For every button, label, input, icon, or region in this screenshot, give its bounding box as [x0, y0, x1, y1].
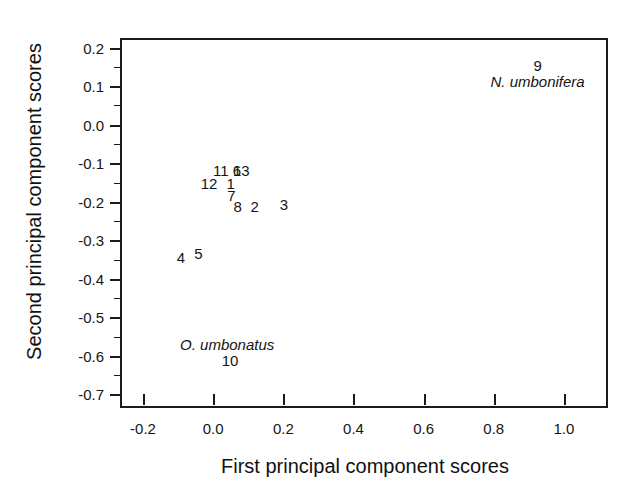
y-tick-label: -0.6 [78, 347, 104, 364]
species-annotation: N. umbonifera [490, 74, 584, 89]
y-tick-label: -0.5 [78, 309, 104, 326]
y-axis-title: Second principal component scores [23, 2, 46, 402]
data-point-label: 9 [533, 58, 541, 73]
y-tick-mark [110, 279, 121, 281]
x-tick-mark [494, 394, 496, 405]
x-tick-label: 1.0 [553, 420, 574, 437]
y-minor-tick-mark [114, 298, 121, 299]
data-point-label: 2 [250, 198, 258, 213]
y-minor-tick-mark [114, 221, 121, 222]
y-tick-mark [110, 317, 121, 319]
y-tick-label: -0.1 [78, 155, 104, 172]
x-tick-label: 0.8 [483, 420, 504, 437]
y-tick-label: -0.7 [78, 386, 104, 403]
x-tick-label: 0.4 [343, 420, 364, 437]
y-minor-tick-mark [114, 260, 121, 261]
data-point-label: 5 [194, 245, 202, 260]
data-point-label: 12 [201, 176, 218, 191]
y-minor-tick-mark [114, 337, 121, 338]
x-axis-title: First principal component scores [120, 455, 610, 478]
x-tick-mark [143, 394, 145, 405]
y-tick-mark [110, 394, 121, 396]
x-tick-mark [283, 394, 285, 405]
y-tick-mark [110, 125, 121, 127]
data-point-label: 3 [280, 196, 288, 211]
y-tick-mark [110, 240, 121, 242]
x-tick-mark [564, 394, 566, 405]
y-tick-mark [110, 163, 121, 165]
x-tick-mark [213, 394, 215, 405]
y-tick-label: 0.2 [83, 39, 104, 56]
plot-area: 0.20.10.0-0.1-0.2-0.3-0.4-0.5-0.6-0.7 -0… [120, 38, 608, 408]
data-point-label: 4 [177, 249, 185, 264]
y-tick-label: -0.4 [78, 270, 104, 287]
y-tick-label: 0.0 [83, 116, 104, 133]
y-tick-label: -0.2 [78, 193, 104, 210]
y-tick-label: -0.3 [78, 232, 104, 249]
pca-scatter-figure: Second principal component scores First … [0, 0, 644, 504]
y-tick-label: 0.1 [83, 78, 104, 95]
x-tick-mark [353, 394, 355, 405]
y-tick-mark [110, 202, 121, 204]
y-tick-mark [110, 86, 121, 88]
x-tick-label: 0.6 [413, 420, 434, 437]
data-point-label: 10 [222, 352, 239, 367]
data-point-label: 8 [234, 199, 242, 214]
species-annotation: O. umbonatus [180, 336, 274, 351]
x-tick-label: 0.0 [203, 420, 224, 437]
y-tick-mark [110, 356, 121, 358]
y-minor-tick-mark [114, 183, 121, 184]
y-minor-tick-mark [114, 105, 121, 106]
y-tick-mark [110, 48, 121, 50]
data-point-label: 13 [233, 162, 250, 177]
x-tick-label: -0.2 [130, 420, 156, 437]
x-tick-label: 0.2 [273, 420, 294, 437]
y-minor-tick-mark [114, 375, 121, 376]
y-minor-tick-mark [114, 144, 121, 145]
y-minor-tick-mark [114, 67, 121, 68]
x-tick-mark [424, 394, 426, 405]
